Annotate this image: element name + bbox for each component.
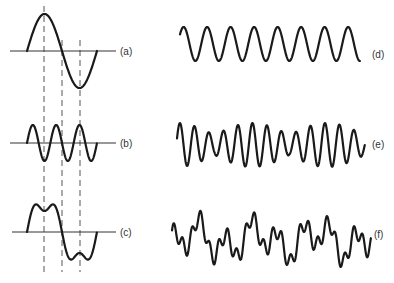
wave-d <box>180 27 360 61</box>
label-a: (a) <box>120 46 132 57</box>
label-d: (d) <box>372 49 384 60</box>
wave-e <box>177 123 365 167</box>
diagram: (a) (b) (c) (d) (e) (f) <box>0 0 394 283</box>
label-b: (b) <box>120 138 132 149</box>
label-f: (f) <box>374 229 383 240</box>
label-c: (c) <box>120 227 132 238</box>
wave-f <box>172 211 371 267</box>
label-e: (e) <box>372 139 384 150</box>
